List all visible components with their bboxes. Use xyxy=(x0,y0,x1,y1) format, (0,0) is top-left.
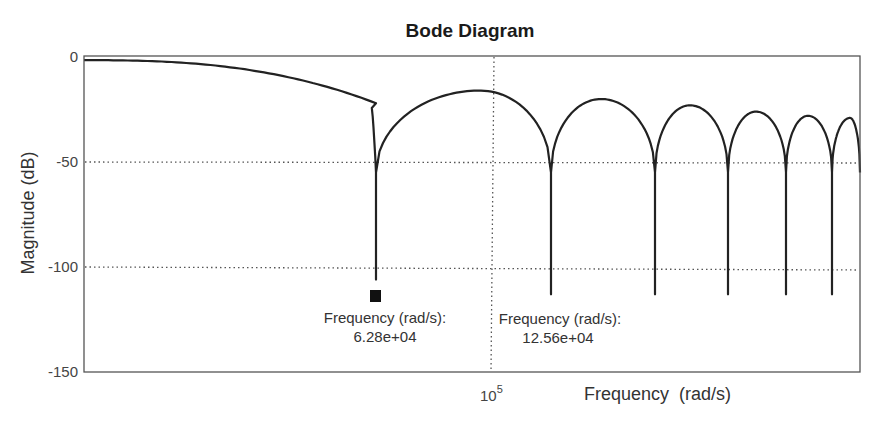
x-axis-label: Frequency (rad/s) xyxy=(584,384,731,404)
datatip-marker[interactable] xyxy=(370,290,381,302)
ytick-label-minus100: -100 xyxy=(48,258,78,275)
annotation-value-2: 12.56e+04 xyxy=(522,329,593,346)
y-axis-ticks: 0 -50 -100 -150 xyxy=(48,48,78,380)
gridline-x-1e5 xyxy=(491,57,494,372)
xtick-label-1e5: 105 xyxy=(480,383,503,404)
ytick-label-minus50: -50 xyxy=(56,153,78,170)
annotation-value-1: 6.28e+04 xyxy=(354,328,417,345)
datatip-annotation-2: Frequency (rad/s): 12.56e+04 xyxy=(499,310,622,346)
ytick-label-minus150: -150 xyxy=(48,363,78,380)
ytick-label-0: 0 xyxy=(70,48,78,65)
y-axis-label: Magnitude (dB) xyxy=(18,151,38,274)
gridline-y-minus100 xyxy=(85,267,859,270)
datatip-annotation-1: Frequency (rad/s): 6.28e+04 xyxy=(324,309,447,345)
chart-title: Bode Diagram xyxy=(406,20,535,41)
gridline-y-minus50 xyxy=(85,162,859,163)
annotation-label-1: Frequency (rad/s): xyxy=(324,309,447,326)
x-axis-ticks: 105 xyxy=(480,383,503,404)
plot-frame xyxy=(84,56,860,372)
annotation-label-2: Frequency (rad/s): xyxy=(499,310,622,327)
bode-chart: Bode Diagram 0 -50 -100 -150 105 Frequen… xyxy=(0,0,875,427)
magnitude-curve xyxy=(84,60,860,294)
grid xyxy=(85,57,859,372)
